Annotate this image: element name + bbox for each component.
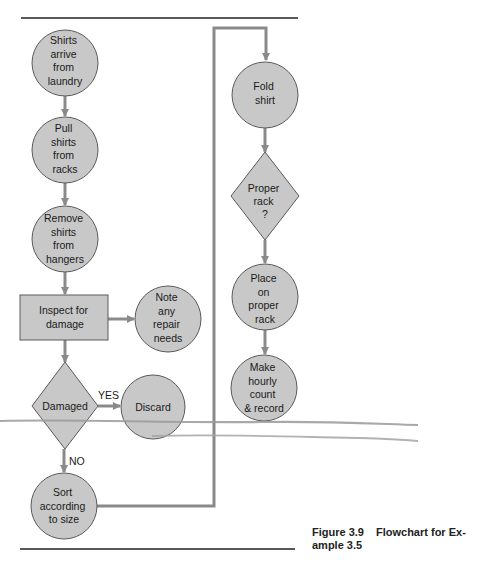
edge-label-no: NO <box>69 455 85 467</box>
figure-number: Figure 3.9 <box>312 526 364 538</box>
caption-line-2: ample 3.5 <box>312 539 472 552</box>
node-text-note-repair: Note any repair needs <box>153 291 183 344</box>
flowchart: Shirts arrive from laundry Pull shirts f… <box>0 0 479 575</box>
node-text-fold: Fold shirt <box>253 80 276 106</box>
node-text-damaged: Damaged <box>42 400 88 412</box>
node-text-pull-shirts: Pull shirts from racks <box>51 122 79 175</box>
figure-caption: Figure 3.9Flowchart for Ex- ample 3.5 <box>312 526 472 552</box>
edge-label-yes: YES <box>98 389 119 401</box>
node-text-discard: Discard <box>135 401 171 413</box>
node-text-hourly-count: Make hourly count & record <box>244 361 284 414</box>
caption-line-1: Figure 3.9Flowchart for Ex- <box>312 526 472 539</box>
figure-title-part1: Flowchart for Ex- <box>376 526 466 538</box>
node-text-inspect: Inspect for damage <box>39 304 91 330</box>
scan-smudge-2 <box>152 435 418 441</box>
